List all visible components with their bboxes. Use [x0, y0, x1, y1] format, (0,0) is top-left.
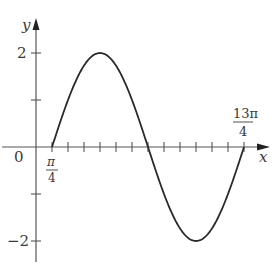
- x-tick-label-pi-over-4: π 4: [46, 155, 58, 185]
- svg-text:13π: 13π: [233, 106, 259, 121]
- y-tick-label-neg2: −2: [7, 232, 29, 250]
- svg-text:4: 4: [48, 171, 56, 185]
- y-tick-label-2: 2: [17, 44, 27, 62]
- y-axis-arrow-icon: [33, 18, 40, 30]
- svg-text:π: π: [46, 155, 56, 169]
- x-tick-label-13pi-over-4: 13π 4: [233, 106, 259, 139]
- svg-text:4: 4: [239, 124, 247, 139]
- origin-label: 0: [14, 148, 24, 166]
- y-axis-label: y: [21, 16, 31, 34]
- x-axis-label: x: [259, 148, 268, 166]
- sine-graph: y x 0 2 −2 π 4 13π 4: [0, 0, 277, 278]
